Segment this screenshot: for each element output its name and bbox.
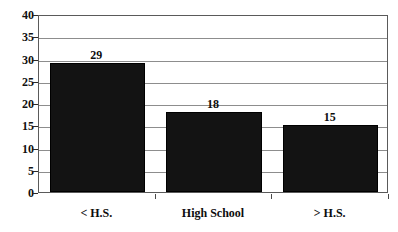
x-axis: < H.S.High School> H.S. — [38, 199, 388, 223]
y-axis-tick-mark — [33, 37, 38, 38]
x-axis-tick-mark — [388, 194, 389, 199]
bar-value-label: 29 — [49, 49, 145, 61]
bar — [283, 125, 379, 192]
y-axis-tick-mark — [33, 82, 38, 83]
x-axis-tick-label: High School — [155, 207, 272, 219]
bar — [50, 63, 146, 192]
bar — [166, 112, 262, 192]
x-axis-tick-label: < H.S. — [38, 207, 155, 219]
bar-value-label: 15 — [282, 111, 378, 123]
y-axis-tick-label: 35 — [2, 31, 34, 43]
y-axis-tick-label: 0 — [2, 187, 34, 199]
y-axis-tick-mark — [33, 149, 38, 150]
y-axis-tick-label: 30 — [2, 54, 34, 66]
y-axis-tick-label: 20 — [2, 98, 34, 110]
y-axis: 0510152025303540 — [0, 0, 34, 232]
y-axis-tick-label: 25 — [2, 76, 34, 88]
y-axis-tick-mark — [33, 126, 38, 127]
y-axis-tick-label: 10 — [2, 143, 34, 155]
x-axis-tick-mark — [155, 194, 156, 199]
x-axis-tick-label: > H.S. — [271, 207, 388, 219]
y-axis-tick-mark — [33, 104, 38, 105]
y-axis-tick-label: 15 — [2, 120, 34, 132]
y-axis-tick-mark — [33, 60, 38, 61]
x-axis-tick-mark — [271, 194, 272, 199]
y-axis-tick-mark — [33, 171, 38, 172]
y-axis-tick-label: 5 — [2, 165, 34, 177]
y-axis-tick-mark — [33, 15, 38, 16]
bar-chart: 0510152025303540 291815 < H.S.High Schoo… — [0, 0, 398, 232]
y-axis-tick-label: 40 — [2, 9, 34, 21]
y-axis-tick-mark — [33, 193, 38, 194]
bar-value-label: 18 — [165, 98, 261, 110]
